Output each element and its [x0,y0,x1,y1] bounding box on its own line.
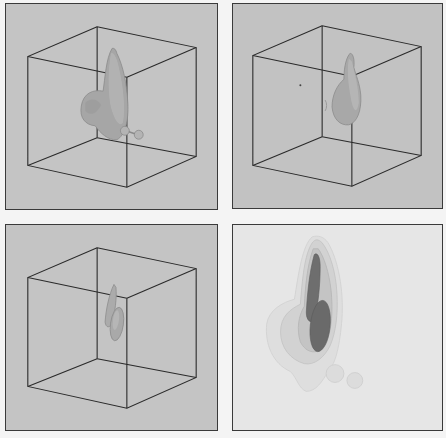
contour-projection [233,225,442,430]
isosurface-blob [105,284,126,341]
isosurface-blob [299,53,361,124]
wireframe-cube-render [6,225,217,430]
panel-top-right-isosurface [232,3,443,209]
wireframe-cube-render [6,4,217,209]
panel-bottom-left-isosurface [5,224,218,431]
isosurface-blob [81,48,143,139]
panel-bottom-right-contour [232,224,443,431]
panel-top-left-isosurface [5,3,218,210]
wireframe-cube-render [233,4,442,208]
